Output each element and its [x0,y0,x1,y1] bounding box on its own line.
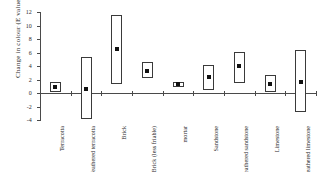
x-tick [101,91,102,96]
x-tick [316,91,317,96]
mean-marker [84,87,88,91]
mean-marker [53,85,57,89]
mean-marker [268,82,272,86]
x-category-label: Weathered limestone [304,126,311,172]
x-tick [40,91,41,96]
y-tick-label: 2 [29,77,32,83]
y-tick [37,12,41,13]
colour-change-chart: Change in colour (E values) -4-202468101… [0,0,327,172]
y-tick-label: -4 [27,117,32,123]
y-tick-label: 12 [26,9,32,15]
y-tick [37,107,41,108]
mean-marker [237,64,241,68]
x-tick [71,91,72,96]
x-category-label: Weathered sandstone [242,126,249,172]
x-category-label: Weathered terracotta [89,126,96,172]
y-tick-label: 4 [29,63,32,69]
x-tick [285,91,286,96]
x-tick [255,91,256,96]
x-tick [132,91,133,96]
y-tick [37,80,41,81]
x-category-label: mortar [181,126,188,172]
y-tick [37,53,41,54]
plot-area: -4-2024681012TerracottaWeathered terraco… [40,12,316,120]
x-tick [193,91,194,96]
y-tick [37,120,41,121]
x-tick [163,91,164,96]
y-tick [37,66,41,67]
mean-marker [145,69,149,73]
x-category-label: Limestone [273,126,280,172]
y-tick-label: 8 [29,36,32,42]
y-tick-label: 6 [29,50,32,56]
mean-marker [115,47,119,51]
mean-marker [176,82,180,86]
y-tick [37,26,41,27]
y-tick [37,39,41,40]
x-category-label: Brick [120,126,127,172]
y-tick-label: 10 [26,23,32,29]
mean-marker [207,75,211,79]
x-category-label: Sandstone [212,126,219,172]
mean-marker [299,80,303,84]
y-tick-label: -2 [27,104,32,110]
x-category-label: Brick (less friable) [150,126,157,172]
y-tick-label: 0 [29,90,32,96]
x-category-label: Terracotta [58,126,65,172]
x-tick [224,91,225,96]
y-axis-title: Change in colour (E values) [14,0,26,86]
